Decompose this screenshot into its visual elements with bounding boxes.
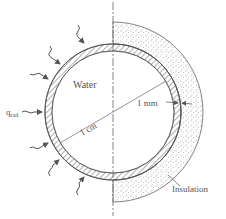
water-label: Water: [73, 79, 97, 90]
insulation-label: Insulation: [172, 184, 208, 194]
qrad-subscript: rad: [11, 112, 19, 118]
thickness-label: 1 mm: [137, 98, 158, 108]
qrad-label: qrad: [6, 107, 18, 118]
diagram-canvas: Water qrad 1 cm 1 mm Insulation: [0, 0, 226, 219]
pipe-insulation-diagram: Water qrad 1 cm 1 mm Insulation: [0, 0, 226, 219]
